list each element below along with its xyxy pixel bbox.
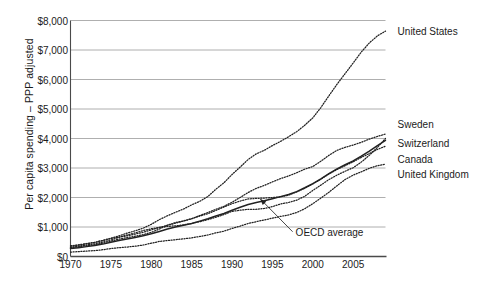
- annotation-oecd-average: OECD average: [296, 226, 364, 237]
- series-label-canada: Canada: [398, 153, 433, 164]
- x-tick-label: 1980: [140, 259, 162, 270]
- x-tick-label: 1975: [100, 259, 122, 270]
- x-tick-label: 1985: [181, 259, 203, 270]
- x-tick-label: 2000: [302, 259, 324, 270]
- series-label-united-states: United States: [398, 25, 458, 36]
- x-tick-label: 1995: [261, 259, 283, 270]
- chart-container: Per capita spending – PPP adjusted $0$1,…: [0, 0, 483, 293]
- x-tick-label: 2005: [342, 259, 364, 270]
- x-tick-label: 1970: [59, 259, 81, 270]
- series-label-switzerland: Switzerland: [398, 137, 450, 148]
- x-tick-label: 1990: [221, 259, 243, 270]
- grid-lines: [71, 21, 386, 228]
- series-lines: [71, 31, 386, 252]
- series-label-sweden: Sweden: [398, 119, 434, 130]
- series-label-united-kingdom: United Kingdom: [398, 169, 469, 180]
